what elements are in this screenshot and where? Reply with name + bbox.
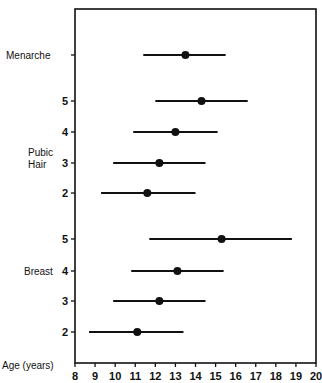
x-tick-label: 13	[169, 370, 181, 382]
mean-point	[181, 51, 189, 59]
x-tick-label: 19	[290, 370, 302, 382]
group-label-hair: Hair	[28, 159, 47, 170]
mean-point	[133, 328, 141, 336]
x-tick-label: 20	[310, 370, 322, 382]
y-tick-label: 5	[62, 95, 68, 107]
y-tick-label: 4	[62, 265, 69, 277]
mean-point	[198, 97, 206, 105]
chart: 89101112131415161718192054325432Menarche…	[0, 0, 322, 383]
y-tick-label: 2	[62, 326, 68, 338]
x-tick-label: 18	[270, 370, 282, 382]
mean-point	[143, 189, 151, 197]
y-tick-label: 4	[62, 126, 69, 138]
range-plot: 89101112131415161718192054325432Menarche…	[0, 0, 322, 383]
mean-point	[171, 128, 179, 136]
mean-point	[155, 297, 163, 305]
mean-point	[155, 159, 163, 167]
x-tick-label: 10	[109, 370, 121, 382]
x-tick-label: 16	[230, 370, 242, 382]
x-tick-label: 9	[92, 370, 98, 382]
y-tick-label: 3	[62, 295, 68, 307]
plot-frame	[75, 9, 316, 363]
x-tick-label: 11	[129, 370, 141, 382]
x-tick-label: 14	[189, 370, 202, 382]
mean-point	[173, 267, 181, 275]
y-tick-label: 3	[62, 157, 68, 169]
x-axis-label: Age (years)	[2, 360, 54, 371]
y-tick-label: 5	[62, 233, 68, 245]
x-tick-label: 12	[149, 370, 161, 382]
group-label-menarche: Menarche	[6, 50, 51, 61]
group-label-breast: Breast	[24, 266, 53, 277]
group-label-pubic: Pubic	[28, 147, 53, 158]
x-tick-label: 8	[72, 370, 78, 382]
y-tick-label: 2	[62, 187, 68, 199]
mean-point	[218, 235, 226, 243]
x-tick-label: 15	[209, 370, 221, 382]
x-tick-label: 17	[250, 370, 262, 382]
